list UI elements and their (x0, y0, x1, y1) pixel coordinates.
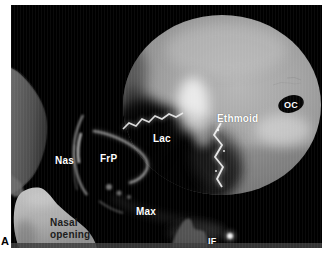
bone-fleck (117, 191, 122, 196)
label-nasal-opening-line2: opening (50, 229, 90, 241)
infraorbital-foramen-spot (227, 233, 233, 239)
panel-letter: A (1, 235, 9, 247)
figure-panel: Ethmoid OC Lac Nas FrP Max IF Nasal open… (0, 0, 328, 259)
skull-specimen-graphic (11, 5, 322, 248)
label-ethmoid: Ethmoid (217, 114, 258, 124)
label-maxilla: Max (136, 207, 156, 217)
bone-speckle (215, 170, 217, 172)
label-nasal-opening: Nasal opening (50, 217, 90, 241)
bone-fleck (106, 184, 112, 190)
label-infraorbital-foramen: IF (208, 236, 216, 246)
label-lacrimal: Lac (153, 134, 171, 144)
bone-fleck (127, 195, 131, 199)
label-nasal-bone: Nas (55, 156, 74, 166)
specimen-photo: Ethmoid OC Lac Nas FrP Max IF Nasal open… (11, 5, 322, 248)
bone-speckle (223, 150, 225, 152)
bottom-bone-strip (11, 243, 322, 248)
bone-speckle (217, 129, 219, 131)
label-optic-canal: OC (284, 100, 298, 110)
label-frontal-process: FrP (100, 154, 117, 164)
label-nasal-opening-line1: Nasal (50, 217, 90, 229)
